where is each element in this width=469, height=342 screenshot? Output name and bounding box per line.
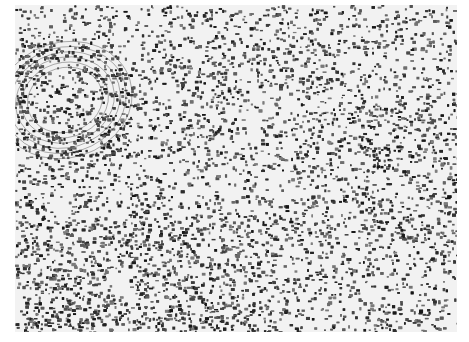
tissue-texture	[15, 5, 457, 332]
micrograph-image	[15, 5, 457, 332]
